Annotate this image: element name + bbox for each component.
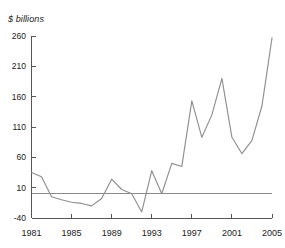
y-axis-tick-label: 60 [17, 152, 27, 162]
x-axis-tick-labels: 1981198519891993199720012005 [21, 228, 282, 238]
y-axis-tick-label: 260 [12, 31, 26, 41]
y-axis-tick-label: 110 [12, 122, 26, 132]
x-axis-tick-label: 1993 [142, 228, 162, 238]
y-axis-tick-marks [32, 36, 36, 218]
y-axis-tick-label: 210 [12, 61, 26, 71]
y-axis-tick-labels: 2602101601106010-40 [12, 31, 26, 223]
x-axis-tick-label: 1989 [102, 228, 122, 238]
x-axis-tick-label: 2001 [222, 228, 242, 238]
data-series-line [32, 38, 273, 212]
line-chart-plot: 2602101601106010-40 19811985198919931997… [0, 0, 285, 248]
y-axis-tick-label: 160 [12, 92, 26, 102]
x-axis-tick-label: 1981 [21, 228, 41, 238]
x-axis-tick-marks [32, 214, 273, 218]
x-axis-tick-label: 2005 [262, 228, 282, 238]
x-axis-tick-label: 1997 [182, 228, 202, 238]
y-axis-tick-label: -40 [14, 213, 27, 223]
chart-container: $ billions 2602101601106010-40 198119851… [0, 0, 285, 248]
x-axis-tick-label: 1985 [62, 228, 82, 238]
y-axis-tick-label: 10 [17, 183, 27, 193]
